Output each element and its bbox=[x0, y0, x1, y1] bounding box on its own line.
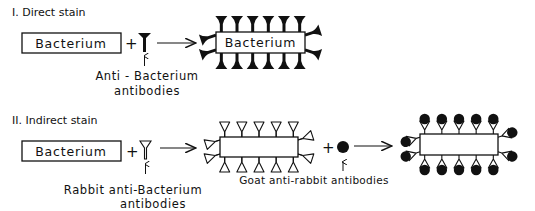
bound-rabbit-antibody bbox=[220, 157, 230, 172]
bound-antibody bbox=[215, 53, 227, 69]
bound-goat-labeled-antibody bbox=[471, 114, 481, 134]
bound-antibody bbox=[303, 24, 322, 40]
bound-antibody bbox=[231, 16, 243, 32]
bound-antibody bbox=[199, 44, 218, 60]
bound-goat-labeled-antibody bbox=[399, 132, 421, 148]
bound-rabbit-antibody bbox=[254, 157, 264, 172]
anti-bacterium-caption-line1: Anti - Bacterium bbox=[95, 69, 198, 83]
bound-goat-labeled-antibody bbox=[496, 147, 518, 163]
bound-goat-labeled-antibody bbox=[419, 155, 429, 175]
bound-antibody bbox=[294, 53, 306, 69]
goat-antibody-icon bbox=[337, 141, 349, 153]
bound-goat-labeled-antibody bbox=[488, 155, 498, 175]
bound-rabbit-antibody bbox=[237, 122, 247, 137]
bacterium-label: Bacterium bbox=[35, 144, 107, 159]
plus-sign-2: + bbox=[322, 139, 335, 157]
bound-goat-labeled-antibody bbox=[454, 114, 464, 134]
bound-antibody bbox=[199, 29, 218, 45]
indirect-stain-title: II. Indirect stain bbox=[12, 114, 97, 127]
bound-antibody bbox=[247, 53, 259, 69]
bound-rabbit-antibody bbox=[204, 149, 221, 163]
anti-bacterium-antibody-icon bbox=[138, 33, 151, 52]
bound-goat-labeled-antibody bbox=[437, 155, 447, 175]
bound-rabbit-antibody bbox=[220, 122, 230, 137]
bound-rabbit-antibody bbox=[204, 135, 221, 149]
plus-sign: + bbox=[125, 35, 138, 53]
plus-sign: + bbox=[126, 143, 139, 161]
bound-rabbit-antibody bbox=[271, 157, 281, 172]
coated-bacterium-label: Bacterium bbox=[225, 35, 297, 50]
bound-antibody bbox=[278, 16, 290, 32]
final-labeled-bacterium bbox=[399, 114, 519, 175]
bound-antibody bbox=[303, 44, 322, 60]
indirect-stain-section: II. Indirect stain Bacterium + Rabbit an… bbox=[12, 114, 519, 211]
bound-goat-labeled-antibody bbox=[471, 155, 481, 175]
bound-antibody bbox=[278, 53, 290, 69]
bound-goat-labeled-antibody bbox=[496, 126, 518, 142]
goat-antibody-caption: Goat anti-rabbit antibodies bbox=[239, 174, 389, 186]
bacterium-box: Bacterium bbox=[22, 33, 121, 53]
bound-antibody bbox=[215, 16, 227, 32]
bound-rabbit-antibody bbox=[288, 122, 298, 137]
intermediate-bacterium bbox=[204, 122, 314, 172]
bound-rabbit-antibody bbox=[237, 157, 247, 172]
bound-rabbit-antibody bbox=[271, 122, 281, 137]
bound-antibody bbox=[294, 16, 306, 32]
bound-antibody bbox=[247, 16, 259, 32]
bound-goat-labeled-antibody bbox=[488, 114, 498, 134]
bound-goat-labeled-antibody bbox=[437, 114, 447, 134]
direct-stain-title: I. Direct stain bbox=[12, 6, 86, 19]
bound-antibody bbox=[231, 53, 243, 69]
direct-stain-section: I. Direct stain Bacterium + Anti - Bacte… bbox=[12, 6, 322, 98]
rabbit-antibody-caption-line1: Rabbit anti-Bacterium bbox=[64, 183, 202, 197]
coated-bacterium-direct: Bacterium bbox=[199, 16, 322, 69]
bacterium-label: Bacterium bbox=[35, 36, 107, 51]
rabbit-antibody-caption-line2: antibodies bbox=[120, 197, 186, 211]
staining-diagram: I. Direct stain Bacterium + Anti - Bacte… bbox=[0, 0, 535, 211]
bound-antibody bbox=[262, 53, 274, 69]
bound-goat-labeled-antibody bbox=[419, 114, 429, 134]
bound-rabbit-antibody bbox=[254, 122, 264, 137]
rabbit-antibody-icon bbox=[140, 141, 151, 159]
anti-bacterium-caption-line2: antibodies bbox=[114, 84, 180, 98]
bound-rabbit-antibody bbox=[296, 149, 313, 163]
bound-rabbit-antibody bbox=[288, 157, 298, 172]
bound-goat-labeled-antibody bbox=[399, 147, 421, 163]
bound-rabbit-antibody bbox=[296, 131, 313, 145]
bound-goat-labeled-antibody bbox=[454, 155, 464, 175]
bacterium-box: Bacterium bbox=[22, 141, 121, 161]
bound-antibody bbox=[262, 16, 274, 32]
